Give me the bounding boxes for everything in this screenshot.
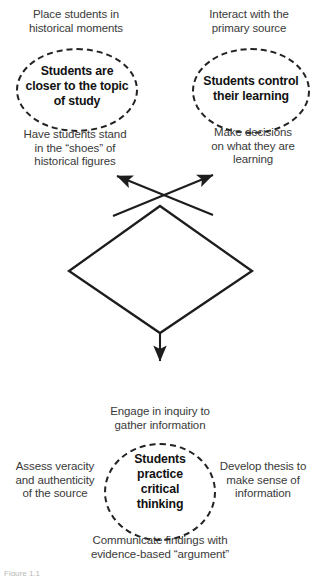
top-left-caption-below: Have students stand in the “shoes” of hi…	[2, 128, 148, 169]
bottom-caption-below: Communicate findings with evidence-based…	[54, 534, 266, 561]
top-right-caption-above: Interact with the primary source	[186, 8, 312, 35]
top-right-core-label: Students control their learning	[190, 74, 312, 104]
arrow-up-left	[117, 176, 213, 215]
center-diamond-label: Why are Primary Sources Valuable?	[72, 243, 248, 291]
figure-caption-cutoff: Figure 1.1	[4, 569, 94, 576]
top-right-caption-below: Make decisions on what they are learning	[192, 126, 314, 167]
bottom-caption-above: Engage in inquiry to gather information	[66, 405, 254, 432]
arrow-up-right	[113, 175, 213, 216]
top-left-caption-above: Place students in historical moments	[6, 8, 146, 35]
bottom-caption-right: Develop thesis to make sense of informat…	[210, 460, 316, 501]
bottom-core-label: Students practice critical thinking	[106, 452, 214, 512]
diagram-canvas: Place students in historical moments Stu…	[0, 0, 318, 576]
bottom-caption-left: Assess veracity and authenticity of the …	[2, 460, 108, 501]
top-left-core-label: Students are closer to the topic of stud…	[14, 64, 140, 109]
